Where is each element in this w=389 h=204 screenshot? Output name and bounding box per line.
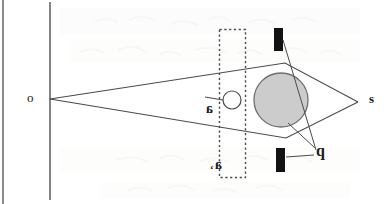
- label-object-a-prime-glyph: a: [215, 158, 222, 172]
- label-object-a-glyph: a: [206, 102, 213, 116]
- label-object-a: a: [192, 88, 213, 130]
- figure-canvas: o s q a ‘a: [0, 0, 389, 204]
- label-point-o: o: [27, 91, 34, 104]
- label-point-q: q: [316, 143, 325, 159]
- black-bar-bottom: [276, 148, 285, 172]
- label-object-a-prime: ‘a: [197, 144, 222, 186]
- small-open-circle: [223, 91, 241, 109]
- label-prime-glyph: ‘: [210, 163, 214, 175]
- black-bar-top: [274, 28, 283, 51]
- shaded-disk: [254, 73, 308, 127]
- label-point-s: s: [369, 92, 374, 105]
